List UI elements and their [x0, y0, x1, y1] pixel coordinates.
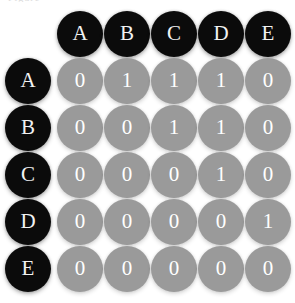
cell-E-C-text: 0 — [169, 258, 180, 279]
cell-A-B[interactable]: 1 — [104, 58, 150, 104]
cell-A-A-text: 0 — [75, 70, 86, 91]
cell-C-B[interactable]: 0 — [104, 152, 150, 198]
cell-D-A[interactable]: 0 — [57, 199, 103, 245]
cell-E-B-text: 0 — [122, 258, 133, 279]
cell-B-B[interactable]: 0 — [104, 105, 150, 151]
column-header-B[interactable]: B — [104, 11, 150, 57]
column-header-B-text: B — [120, 23, 134, 44]
cell-E-B[interactable]: 0 — [104, 246, 150, 292]
cell-D-E[interactable]: 1 — [245, 199, 291, 245]
cell-B-E-text: 0 — [263, 117, 274, 138]
cell-E-C[interactable]: 0 — [151, 246, 197, 292]
cell-D-E-text: 1 — [263, 211, 274, 232]
row-header-B[interactable]: B — [5, 105, 51, 151]
cell-C-E-text: 0 — [263, 164, 274, 185]
row-header-E-text: E — [22, 258, 35, 279]
cell-A-E[interactable]: 0 — [245, 58, 291, 104]
cell-E-A[interactable]: 0 — [57, 246, 103, 292]
cell-C-C[interactable]: 0 — [151, 152, 197, 198]
row-header-C-text: C — [21, 164, 35, 185]
cell-A-B-text: 1 — [122, 70, 133, 91]
cell-E-A-text: 0 — [75, 258, 86, 279]
cell-B-B-text: 0 — [122, 117, 133, 138]
cell-A-A[interactable]: 0 — [57, 58, 103, 104]
cell-B-D-text: 1 — [216, 117, 227, 138]
row-header-D[interactable]: D — [5, 199, 51, 245]
row-header-B-text: B — [21, 117, 35, 138]
cell-B-D[interactable]: 1 — [198, 105, 244, 151]
cell-E-D[interactable]: 0 — [198, 246, 244, 292]
cell-A-E-text: 0 — [263, 70, 274, 91]
cell-B-A[interactable]: 0 — [57, 105, 103, 151]
cell-D-B[interactable]: 0 — [104, 199, 150, 245]
matrix-grid: ABCDEA01110B00110C00010D00001E00000 — [0, 0, 295, 303]
cell-B-C-text: 1 — [169, 117, 180, 138]
cell-D-A-text: 0 — [75, 211, 86, 232]
cell-D-C[interactable]: 0 — [151, 199, 197, 245]
row-header-E[interactable]: E — [5, 246, 51, 292]
column-header-D[interactable]: D — [198, 11, 244, 57]
cell-E-E[interactable]: 0 — [245, 246, 291, 292]
cell-B-A-text: 0 — [75, 117, 86, 138]
cell-A-C[interactable]: 1 — [151, 58, 197, 104]
row-header-A-text: A — [20, 70, 35, 91]
column-header-E[interactable]: E — [245, 11, 291, 57]
cell-C-C-text: 0 — [169, 164, 180, 185]
cell-B-C[interactable]: 1 — [151, 105, 197, 151]
column-header-D-text: D — [213, 23, 228, 44]
cell-D-D-text: 0 — [216, 211, 227, 232]
column-header-A-text: A — [72, 23, 87, 44]
row-header-A[interactable]: A — [5, 58, 51, 104]
cell-C-B-text: 0 — [122, 164, 133, 185]
cell-C-D-text: 1 — [216, 164, 227, 185]
cell-C-E[interactable]: 0 — [245, 152, 291, 198]
cell-A-C-text: 1 — [169, 70, 180, 91]
cell-C-A[interactable]: 0 — [57, 152, 103, 198]
cell-A-D[interactable]: 1 — [198, 58, 244, 104]
column-header-C[interactable]: C — [151, 11, 197, 57]
cell-A-D-text: 1 — [216, 70, 227, 91]
column-header-C-text: C — [167, 23, 181, 44]
column-header-E-text: E — [262, 23, 275, 44]
adjacency-matrix-figure: Figure ABCDEA01110B00110C00010D00001E000… — [0, 0, 295, 303]
cell-C-A-text: 0 — [75, 164, 86, 185]
cell-C-D[interactable]: 1 — [198, 152, 244, 198]
cell-E-D-text: 0 — [216, 258, 227, 279]
cell-D-D[interactable]: 0 — [198, 199, 244, 245]
cell-D-C-text: 0 — [169, 211, 180, 232]
column-header-A[interactable]: A — [57, 11, 103, 57]
cell-E-E-text: 0 — [263, 258, 274, 279]
cell-D-B-text: 0 — [122, 211, 133, 232]
cell-B-E[interactable]: 0 — [245, 105, 291, 151]
row-header-C[interactable]: C — [5, 152, 51, 198]
row-header-D-text: D — [20, 211, 35, 232]
